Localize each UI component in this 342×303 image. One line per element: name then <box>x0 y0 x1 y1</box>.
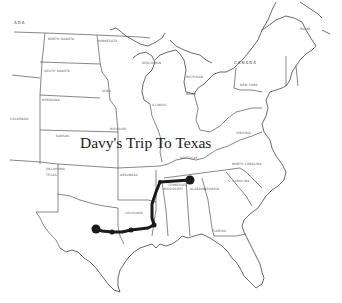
label-kansas: KANSAS <box>56 134 69 138</box>
label-new-york: NEW YORK <box>240 83 259 87</box>
label-texas: TEXAS <box>45 173 57 177</box>
map-canvas: ADA CANADA NORTH DAKOTA SOUTH DAKOTA MIN… <box>0 0 342 303</box>
label-south-carolina: S. CAROLINA <box>228 179 250 183</box>
label-louisiana: LOUISIANA <box>125 211 144 215</box>
route-waypoint-marker <box>110 230 115 235</box>
label-wisconsin: WISCONSIN <box>142 61 161 65</box>
label-michigan: MICHIGAN <box>186 75 203 79</box>
label-maine: MAINE <box>300 27 311 31</box>
label-nebraska: NEBRASKA <box>42 98 60 102</box>
northeast-coast <box>234 2 330 92</box>
route-waypoint-marker <box>158 180 162 184</box>
label-illinois: ILLINOIS <box>152 103 166 107</box>
map-title: Davy's Trip To Texas <box>80 134 211 151</box>
great-lakes-shore <box>133 40 234 104</box>
label-ada: ADA <box>14 20 25 25</box>
label-mississippi: MISSISSIPPI <box>163 187 183 191</box>
route-end-marker <box>92 225 101 234</box>
label-kentucky: KENTUCKY <box>180 156 198 160</box>
route-start-marker <box>186 176 195 185</box>
us-canada-border <box>14 32 150 38</box>
label-florida: FLORIDA <box>212 229 227 233</box>
label-missouri: MISSOURI <box>110 127 126 131</box>
label-virginia: VIRGINIA <box>236 131 252 135</box>
label-colorado: COLORADO <box>10 117 29 121</box>
atlantic-coast <box>242 92 286 288</box>
label-minnesota: MINNESOTA <box>98 39 118 43</box>
label-north-dakota: NORTH DAKOTA <box>48 37 75 41</box>
gulf-coast <box>60 234 256 292</box>
label-arkansas: ARKANSAS <box>120 173 138 177</box>
route-waypoint-marker <box>129 228 134 233</box>
texas-west-border <box>36 194 60 248</box>
label-south-dakota: SOUTH DAKOTA <box>44 69 71 73</box>
label-georgia: GEORGIA <box>204 187 220 191</box>
label-north-carolina: NORTH CAROLINA <box>232 162 263 166</box>
label-canada: CANADA <box>234 60 257 65</box>
label-iowa: IOWA <box>102 89 112 93</box>
route-waypoint-marker <box>152 223 157 228</box>
label-oklahoma: OKLAHOMA <box>46 167 66 171</box>
